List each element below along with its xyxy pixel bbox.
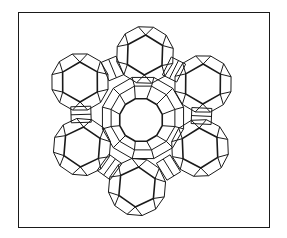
cage-edge: [125, 34, 128, 45]
cage-edge: [60, 156, 64, 166]
connector-midline: [163, 159, 174, 176]
cage-edge: [80, 54, 87, 62]
pore-spoke: [113, 141, 119, 147]
connector-midline: [192, 116, 212, 117]
zeolite-framework-diagram: [0, 0, 287, 238]
cage-edge: [218, 157, 222, 167]
cage-lower-left-hexagon-face: [64, 127, 100, 167]
cage-edge: [72, 167, 80, 174]
pore-spoke: [147, 86, 152, 99]
cage-upper-left-hexagon-face: [63, 62, 98, 102]
cage-edge: [135, 207, 142, 216]
pore-spoke: [162, 109, 175, 114]
cage-edge: [63, 125, 65, 136]
cage-edge: [153, 198, 155, 209]
cage-upper-right-hexagon-face: [186, 64, 221, 104]
cage-edge: [144, 75, 151, 83]
cage-edge: [124, 64, 128, 74]
pore-spoke: [162, 126, 175, 127]
cage-edge: [137, 75, 145, 83]
connector-midline: [109, 59, 117, 77]
cage-edge: [182, 94, 185, 104]
cage-edge: [80, 167, 87, 176]
cage-edge: [72, 54, 80, 62]
pore-spoke: [102, 107, 111, 109]
cage-lower-right-hexagon-face: [182, 128, 217, 168]
cage-edge: [132, 158, 139, 167]
pore-spoke: [134, 86, 135, 99]
pore-spoke: [147, 141, 152, 150]
pore-spoke: [175, 107, 184, 109]
pore-spoke: [111, 109, 120, 114]
connector-midline: [104, 159, 116, 175]
cage-edge: [84, 120, 92, 127]
cage-edge: [153, 197, 164, 199]
cage-edge: [146, 27, 154, 35]
cage-edge: [59, 62, 62, 72]
cage-edge: [73, 102, 80, 110]
cage-edge: [60, 92, 63, 103]
cage-edge: [203, 56, 211, 64]
pore-spoke: [157, 136, 167, 142]
cage-edge: [138, 27, 145, 35]
cage-bottom-hexagon-face: [119, 167, 155, 207]
pore-spoke: [120, 95, 126, 105]
pore-spoke: [132, 150, 134, 159]
pore-spoke: [134, 141, 135, 150]
cage-edge: [163, 35, 167, 45]
pore-inner-ring: [120, 99, 163, 142]
cage-edge: [55, 136, 66, 138]
pore-spoke: [111, 126, 120, 127]
cage-edge: [110, 176, 121, 178]
connector-midline: [71, 114, 91, 115]
cage-edge: [220, 94, 223, 105]
cage-edge: [180, 159, 183, 170]
cage-edge: [98, 157, 109, 159]
pore-spoke: [166, 88, 172, 94]
cage-top-hexagon-face: [127, 35, 162, 75]
cage-edge: [155, 168, 159, 178]
cage-edge: [201, 168, 209, 176]
cage-edge: [217, 127, 220, 138]
cage-edge: [127, 207, 135, 214]
pore-spoke: [113, 88, 119, 94]
cage-edge: [196, 56, 203, 64]
cage-edge: [97, 61, 100, 72]
cage-edge: [97, 92, 100, 102]
cage-edge: [115, 195, 119, 205]
pore-spoke: [120, 136, 126, 142]
cage-edge: [139, 160, 147, 167]
cage-edge: [100, 128, 104, 138]
pore-spoke: [157, 95, 167, 105]
cage-edge: [194, 168, 201, 176]
cage-edge: [220, 64, 223, 74]
pore-spoke: [152, 150, 154, 159]
